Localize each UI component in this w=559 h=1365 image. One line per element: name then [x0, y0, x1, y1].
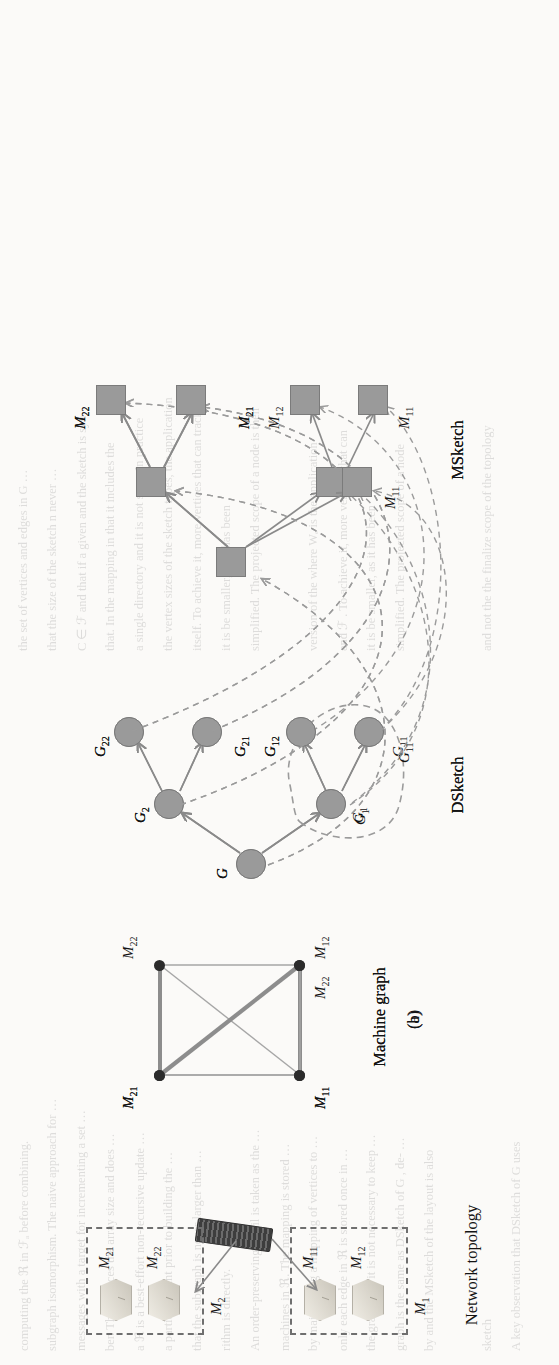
caption-msketch-b: MSketch: [448, 375, 468, 525]
msketch-b-node-M11: [342, 467, 372, 497]
label-msketch-b-M11: M11: [382, 487, 401, 509]
label-msketch-b-M21: M21: [236, 407, 255, 430]
msketch-b-node-M21: [176, 385, 206, 415]
msketch-b-node-M22: [96, 385, 126, 415]
label-msketch-b-M22: M22: [72, 407, 91, 430]
figure-canvas-3: M11 M21 M22 Machine graph (b) G G1: [0, 0, 559, 1365]
msketch-b-node-m2: [136, 467, 166, 497]
msketch-b-node-root: [216, 547, 246, 577]
msketch-b-edges: [0, 0, 559, 1365]
